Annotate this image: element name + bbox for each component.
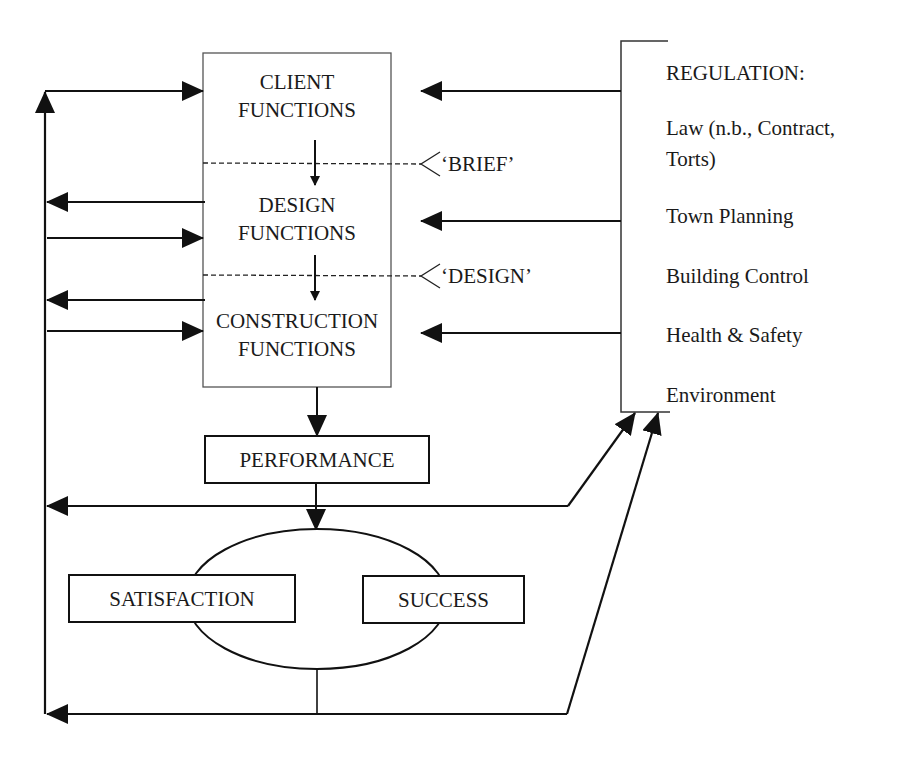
brief-chevron xyxy=(421,152,440,176)
outcomes-to-regulation-arrow xyxy=(567,413,658,714)
client-label-line1: CLIENT xyxy=(203,68,391,96)
brief-milestone-label: ‘BRIEF’ xyxy=(441,150,515,178)
design-label-line2: FUNCTIONS xyxy=(203,219,391,247)
client-functions-label: CLIENT FUNCTIONS xyxy=(203,68,391,124)
performance-label: PERFORMANCE xyxy=(205,446,429,474)
design-divider xyxy=(203,275,421,276)
satisfaction-label: SATISFACTION xyxy=(69,585,295,613)
regulation-item-law: Law (n.b., Contract, xyxy=(666,114,835,142)
regulation-item-town-planning: Town Planning xyxy=(666,202,793,230)
regulation-bracket xyxy=(621,41,670,412)
regulation-title: REGULATION: xyxy=(666,59,805,87)
design-chevron xyxy=(421,264,440,288)
construction-label-line1: CONSTRUCTION xyxy=(203,307,391,335)
design-label-line1: DESIGN xyxy=(203,191,391,219)
regulation-item-environment: Environment xyxy=(666,381,776,409)
performance-to-regulation-arrow xyxy=(568,413,635,506)
regulation-item-torts: Torts) xyxy=(666,145,716,173)
client-label-line2: FUNCTIONS xyxy=(203,96,391,124)
construction-label-line2: FUNCTIONS xyxy=(203,335,391,363)
regulation-item-building-control: Building Control xyxy=(666,262,809,290)
brief-divider xyxy=(203,163,421,164)
construction-functions-label: CONSTRUCTION FUNCTIONS xyxy=(203,307,391,363)
success-label: SUCCESS xyxy=(363,586,524,614)
design-milestone-label: ‘DESIGN’ xyxy=(441,262,532,290)
regulation-item-health-safety: Health & Safety xyxy=(666,321,802,349)
design-functions-label: DESIGN FUNCTIONS xyxy=(203,191,391,247)
